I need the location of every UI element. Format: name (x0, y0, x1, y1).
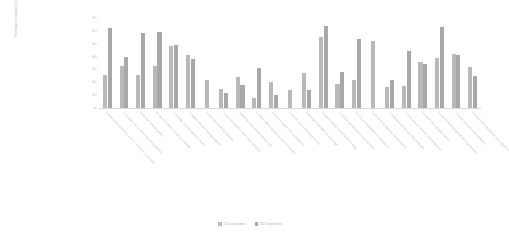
bar-group (415, 18, 432, 108)
y-tick-mark (95, 56, 97, 57)
bar-group (348, 18, 365, 108)
legend-swatch (218, 222, 221, 225)
bar (371, 41, 375, 108)
x-label-slot: To strengthen competitive advantage (298, 109, 315, 199)
x-label-slot: To build new partnerships and ecosystems (398, 109, 415, 199)
bar-group (199, 18, 216, 108)
bar (174, 45, 178, 108)
x-label-slot: To achieve revenue growth (132, 109, 149, 199)
bar-group (232, 18, 249, 108)
y-tick-mark (95, 95, 97, 96)
bar-group (365, 18, 382, 108)
x-axis-labels: To understand customers, to drive innova… (99, 109, 481, 199)
y-tick-mark (95, 82, 97, 83)
bar (252, 98, 256, 108)
bar (186, 55, 190, 108)
legend-label: 2022 respondents (259, 222, 281, 226)
bar (108, 28, 112, 108)
x-label-slot: To attract and retain new customers (448, 109, 465, 199)
bar (385, 87, 389, 108)
bar (169, 46, 173, 108)
x-label-slot: To support digital transformation strate… (315, 109, 332, 199)
legend-item[interactable]: 2021 respondents (218, 222, 245, 226)
legend-swatch (255, 222, 258, 225)
bar-group (315, 18, 332, 108)
bar (240, 85, 244, 108)
x-label-slot: To automate manual business processes (381, 109, 398, 199)
bar (324, 26, 328, 108)
bar (402, 86, 406, 108)
x-label-slot: To enhance fraud detection and security (348, 109, 365, 199)
y-axis-title: Percentage of respondents (%) (15, 0, 18, 78)
bar (288, 90, 292, 108)
x-label-slot: To understand customers, to drive innova… (99, 109, 116, 199)
x-label-slot: To create new business models (415, 109, 432, 199)
bar (124, 57, 128, 108)
x-label-slot: To manage risk and regulatory issues (165, 109, 182, 199)
y-tick-mark (95, 69, 97, 70)
y-axis-ticks: 010203040506070 (85, 18, 97, 108)
bar-group (298, 18, 315, 108)
bar-group (464, 18, 481, 108)
x-label-slot: To personalise customer communication (365, 109, 382, 199)
bar (335, 84, 339, 108)
bar-group (165, 18, 182, 108)
bar (418, 62, 422, 108)
legend-item[interactable]: 2022 respondents (255, 222, 282, 226)
y-tick-mark (95, 108, 97, 109)
plot-area (99, 18, 481, 108)
bar (120, 66, 124, 108)
bar-group (265, 18, 282, 108)
bar (357, 39, 361, 108)
bar (452, 54, 456, 108)
bar-group (398, 18, 415, 108)
bar (456, 55, 460, 108)
bar-group (248, 18, 265, 108)
bar (319, 37, 323, 108)
bar (157, 32, 161, 108)
bar (219, 89, 223, 108)
bar (352, 80, 356, 108)
bar-group (282, 18, 299, 108)
bar-group (332, 18, 349, 108)
bar (269, 82, 273, 108)
chart-legend: 2021 respondents2022 respondents (0, 222, 500, 226)
x-label-slot: To identify new market opportunities (282, 109, 299, 199)
bar-group (182, 18, 199, 108)
x-label-slot: To reduce operating costs across the bus… (248, 109, 265, 199)
bar (423, 64, 427, 108)
x-label-slot: To increase internal efficiency and prod… (116, 109, 133, 199)
bar (307, 90, 311, 108)
bar-group (149, 18, 166, 108)
bar (302, 73, 306, 108)
bar (340, 72, 344, 108)
bar-group (381, 18, 398, 108)
bar (435, 58, 439, 108)
bar (205, 80, 209, 108)
bar (390, 80, 394, 108)
bar (257, 68, 261, 108)
x-label-slot: To improve forecasting and planning accu… (431, 109, 448, 199)
bar-group (215, 18, 232, 108)
bar (274, 95, 278, 108)
bar-group (116, 18, 133, 108)
x-label-slot: To improve customer experience and loyal… (215, 109, 232, 199)
x-label-slot: To support decision making at speed (182, 109, 199, 199)
bar-group (99, 18, 116, 108)
bar (473, 76, 477, 108)
x-axis-label: To comply with new data privacy regulati… (471, 111, 509, 152)
legend-label: 2021 respondents (223, 222, 245, 226)
x-label-slot: To optimise marketing and sales (199, 109, 216, 199)
y-tick-mark (95, 30, 97, 31)
x-label-slot: To improve workforce planning and talent (332, 109, 349, 199)
bar (407, 51, 411, 108)
bar (141, 33, 145, 108)
bar (440, 27, 444, 108)
x-label-slot: To develop new products and services (232, 109, 249, 199)
x-label-slot: To comply with new data privacy regulati… (464, 109, 481, 199)
y-tick-mark (95, 18, 97, 19)
x-label-slot: To improve product innovation and R&D (149, 109, 166, 199)
bar (136, 75, 140, 108)
bar (103, 75, 107, 108)
